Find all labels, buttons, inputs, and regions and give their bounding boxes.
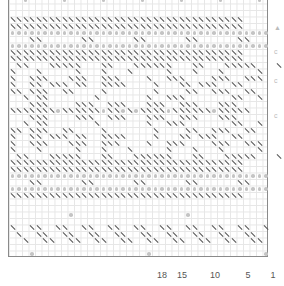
slash-stitch-symbol	[178, 238, 185, 245]
dot-stitch-symbol	[256, 0, 263, 4]
slash-stitch-symbol	[120, 82, 127, 89]
column-label: 18	[157, 270, 167, 280]
dot-stitch-symbol	[263, 43, 270, 50]
side-marker: ▲	[274, 24, 280, 32]
slash-stitch-symbol	[256, 95, 263, 102]
slash-stitch-symbol	[152, 238, 159, 245]
slash-stitch-symbol	[243, 108, 250, 115]
dot-stitch-symbol	[217, 0, 224, 4]
slash-stitch-symbol	[100, 88, 107, 95]
slash-stitch-symbol	[204, 238, 211, 245]
side-marker: c	[274, 48, 280, 56]
side-marker: c	[274, 77, 280, 85]
slash-stitch-symbol	[74, 238, 81, 245]
slash-stitch-symbol	[152, 134, 159, 141]
slash-stitch-symbol	[120, 134, 127, 141]
dot-stitch-symbol	[22, 0, 29, 4]
slash-stitch-symbol	[120, 114, 127, 121]
slash-stitch-symbol	[22, 238, 29, 245]
dot-stitch-symbol	[263, 251, 270, 258]
column-label: 5	[245, 270, 250, 280]
slash-stitch-symbol	[237, 95, 244, 102]
dot-stitch-symbol	[263, 173, 270, 180]
slash-stitch-symbol	[276, 153, 283, 160]
slash-stitch-symbol	[100, 238, 107, 245]
dot-stitch-symbol	[185, 212, 192, 219]
slash-stitch-symbol	[191, 69, 198, 76]
slash-stitch-symbol	[113, 140, 120, 147]
column-label: 15	[177, 270, 187, 280]
slash-stitch-symbol	[126, 69, 133, 76]
slash-stitch-symbol	[152, 88, 159, 95]
slash-stitch-symbol	[230, 238, 237, 245]
slash-stitch-symbol	[178, 140, 185, 147]
slash-stitch-symbol	[107, 62, 114, 69]
slash-stitch-symbol	[48, 238, 55, 245]
slash-stitch-symbol	[191, 114, 198, 121]
column-label: 1	[270, 270, 275, 280]
slash-stitch-symbol	[263, 225, 270, 232]
slash-stitch-symbol	[81, 140, 88, 147]
slash-stitch-symbol	[224, 140, 231, 147]
slash-stitch-symbol	[250, 153, 257, 160]
knitting-chart-grid	[8, 0, 268, 257]
slash-stitch-symbol	[256, 238, 263, 245]
column-label: 10	[210, 270, 220, 280]
dot-stitch-symbol	[139, 0, 146, 4]
slash-stitch-symbol	[250, 127, 257, 134]
slash-stitch-symbol	[146, 140, 153, 147]
slash-stitch-symbol	[256, 147, 263, 154]
dot-stitch-symbol	[146, 251, 153, 258]
slash-stitch-symbol	[22, 62, 29, 69]
slash-stitch-symbol	[191, 88, 198, 95]
slash-stitch-symbol	[276, 62, 283, 69]
slash-stitch-symbol	[81, 82, 88, 89]
dot-stitch-symbol	[100, 0, 107, 4]
side-marker: c	[274, 112, 280, 120]
slash-stitch-symbol	[256, 121, 263, 128]
dot-stitch-symbol	[61, 0, 68, 4]
slash-stitch-symbol	[185, 134, 192, 141]
dot-stitch-symbol	[29, 251, 36, 258]
dot-stitch-symbol	[263, 30, 270, 37]
slash-stitch-symbol	[256, 75, 263, 82]
slash-stitch-symbol	[126, 238, 133, 245]
slash-stitch-symbol	[94, 95, 101, 102]
slash-stitch-symbol	[35, 147, 42, 154]
dot-stitch-symbol	[178, 0, 185, 4]
dot-stitch-symbol	[263, 186, 270, 193]
slash-stitch-symbol	[42, 140, 49, 147]
dot-stitch-symbol	[68, 212, 75, 219]
slash-stitch-symbol	[16, 127, 23, 134]
slash-stitch-symbol	[198, 62, 205, 69]
slash-stitch-symbol	[237, 192, 244, 199]
slash-stitch-symbol	[68, 88, 75, 95]
